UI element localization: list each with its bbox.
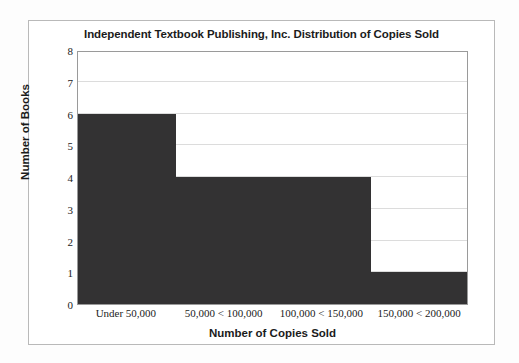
y-axis-tick-label: 3 bbox=[55, 204, 73, 216]
y-axis-tick-label: 2 bbox=[55, 236, 73, 248]
x-axis-tick-label: 100,000 < 150,000 bbox=[273, 307, 371, 325]
bar bbox=[176, 177, 274, 304]
y-axis-tick-label: 6 bbox=[55, 109, 73, 121]
y-axis-tick-label: 0 bbox=[55, 299, 73, 311]
plot-area bbox=[77, 51, 468, 305]
y-axis-tick-label: 5 bbox=[55, 140, 73, 152]
x-axis-title: Number of Copies Sold bbox=[77, 327, 468, 339]
y-axis-tick-label: 1 bbox=[55, 267, 73, 279]
x-axis-tick-label: Under 50,000 bbox=[77, 307, 175, 325]
x-axis-tick-label: 150,000 < 200,000 bbox=[370, 307, 468, 325]
gridline bbox=[78, 81, 467, 82]
bar bbox=[274, 177, 372, 304]
x-axis-tick-label: 50,000 < 100,000 bbox=[175, 307, 273, 325]
x-axis-tick-labels: Under 50,00050,000 < 100,000100,000 < 15… bbox=[77, 307, 468, 325]
y-axis-tick-label: 7 bbox=[55, 77, 73, 89]
chart-canvas: Independent Textbook Publishing, Inc. Di… bbox=[0, 0, 519, 363]
y-axis-tick-label: 8 bbox=[55, 45, 73, 57]
y-axis-tick-labels: 012345678 bbox=[51, 51, 73, 305]
y-axis-title: Number of Books bbox=[19, 52, 31, 212]
bar bbox=[78, 114, 176, 305]
y-axis-tick-label: 4 bbox=[55, 172, 73, 184]
chart-title: Independent Textbook Publishing, Inc. Di… bbox=[28, 28, 495, 40]
bar bbox=[371, 272, 468, 304]
